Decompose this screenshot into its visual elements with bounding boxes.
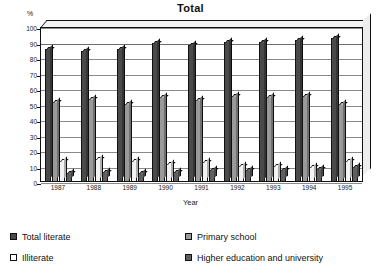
bar	[259, 42, 265, 182]
bar-slot	[52, 102, 58, 181]
bar-group	[291, 28, 327, 181]
bar	[66, 173, 72, 181]
bar-slot	[88, 99, 94, 181]
legend-label: Total literate	[22, 232, 71, 242]
bar	[245, 170, 251, 181]
x-axis-tick-label: 1991	[184, 184, 220, 196]
bar	[352, 167, 358, 181]
x-axis-tick-label: 1992	[219, 184, 255, 196]
bar-slot	[352, 167, 358, 181]
x-axis-tick-label: 1994	[291, 184, 327, 196]
bar	[316, 169, 322, 181]
bar-slot	[45, 49, 51, 181]
bar-slot	[202, 162, 208, 181]
legend-label: Illiterate	[22, 253, 54, 263]
bar-group	[219, 28, 255, 181]
legend-label: Higher education and university	[197, 253, 323, 263]
bar-slot	[273, 166, 279, 182]
bar	[302, 96, 308, 181]
bar-slot	[245, 170, 251, 181]
bar-slot	[295, 40, 301, 181]
legend-item[interactable]: Higher education and university	[185, 253, 375, 263]
y-axis-unit-label: %	[27, 10, 33, 17]
bar	[45, 49, 51, 181]
bar	[238, 166, 244, 182]
bar-slot	[195, 100, 201, 181]
bar	[131, 161, 137, 181]
bar	[159, 97, 165, 181]
bar	[102, 172, 108, 181]
bar-slot	[102, 172, 108, 181]
bar	[266, 97, 272, 181]
x-axis-tick-label: 1989	[112, 184, 148, 196]
bar-group	[184, 28, 220, 181]
legend-swatch	[185, 254, 192, 261]
bar-group	[326, 28, 362, 181]
bar	[309, 167, 315, 181]
bar	[280, 170, 286, 181]
bar-groups	[41, 28, 362, 181]
bar	[88, 99, 94, 181]
bar-slot	[131, 161, 137, 181]
plot-depth-right	[363, 13, 371, 175]
bar	[173, 172, 179, 181]
legend-swatch	[10, 254, 17, 261]
bar-slot	[302, 96, 308, 181]
bar	[166, 164, 172, 181]
bar-slot	[81, 51, 87, 181]
bar-slot	[124, 104, 130, 182]
bar-group	[41, 28, 77, 181]
bar	[188, 45, 194, 181]
bar-group	[255, 28, 291, 181]
legend-item[interactable]: Illiterate	[10, 253, 185, 263]
x-axis-title: Year	[0, 198, 381, 207]
bar-slot	[138, 173, 144, 181]
chart-title: Total	[0, 2, 381, 14]
bar-slot	[331, 38, 337, 181]
bar	[224, 42, 230, 182]
bar	[295, 40, 301, 181]
bar-slot	[166, 164, 172, 181]
bar	[59, 161, 65, 181]
bar-group	[77, 28, 113, 181]
bar-slot	[66, 173, 72, 181]
x-axis-tick-label: 1995	[327, 184, 363, 196]
bar-slot	[345, 161, 351, 181]
bar-slot	[173, 172, 179, 181]
bar-slot	[224, 42, 230, 182]
legend-item[interactable]: Total literate	[10, 232, 185, 242]
bar-slot	[159, 97, 165, 181]
bar-group	[148, 28, 184, 181]
bar-slot	[231, 96, 237, 181]
bar	[138, 173, 144, 181]
bar	[95, 159, 101, 181]
bar	[195, 100, 201, 181]
bar-slot	[59, 161, 65, 181]
bar-slot	[238, 166, 244, 182]
bar-slot	[95, 159, 101, 181]
bar-slot	[117, 49, 123, 181]
legend-swatch	[10, 233, 17, 240]
bar	[345, 161, 351, 181]
x-axis-tick-label: 1993	[255, 184, 291, 196]
bar	[209, 170, 215, 181]
bar	[81, 51, 87, 181]
bar-slot	[259, 42, 265, 182]
bar	[152, 43, 158, 181]
bar	[52, 102, 58, 181]
chart-legend: Total literatePrimary schoolIlliterateHi…	[10, 226, 375, 268]
plot-area: 1009080706050403020100	[40, 27, 363, 182]
bar	[331, 38, 337, 181]
bar	[124, 104, 130, 182]
bar-slot	[316, 169, 322, 181]
bar-chart: Total % 1009080706050403020100 198719881…	[0, 0, 381, 276]
bar-slot	[266, 97, 272, 181]
legend-item[interactable]: Primary school	[185, 232, 375, 242]
legend-swatch	[185, 233, 192, 240]
bar-slot	[309, 167, 315, 181]
x-axis-tick-label: 1990	[148, 184, 184, 196]
bar	[117, 49, 123, 181]
bar-group	[112, 28, 148, 181]
bar-slot	[338, 104, 344, 182]
x-axis-tick-labels: 198719881989199019911992199319941995	[40, 184, 363, 196]
